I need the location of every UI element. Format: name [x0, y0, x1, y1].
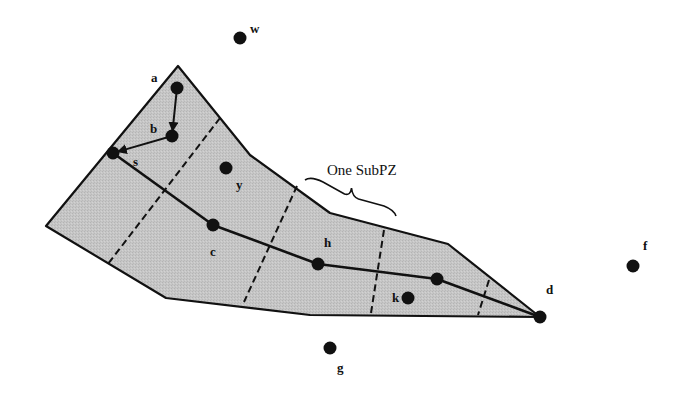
node-label-c: c — [210, 244, 216, 259]
node-label-d: d — [546, 282, 554, 297]
subpz-label: One SubPZ — [327, 162, 397, 178]
node-d — [534, 311, 547, 324]
node-y — [220, 162, 233, 175]
node-c — [207, 219, 220, 232]
node-label-a: a — [151, 70, 158, 85]
node-p — [431, 273, 444, 286]
node-b — [166, 130, 179, 143]
node-label-y: y — [236, 177, 243, 192]
planning-zone-region — [46, 66, 540, 317]
node-w — [234, 32, 247, 45]
node-label-g: g — [337, 360, 344, 375]
node-label-k: k — [392, 290, 400, 305]
node-g — [324, 342, 337, 355]
node-f — [627, 260, 640, 273]
subpz-diagram: One SubPZ absychkdwfg — [0, 0, 679, 397]
node-label-f: f — [643, 238, 648, 253]
node-k — [402, 292, 415, 305]
node-label-b: b — [150, 121, 157, 136]
node-s — [107, 147, 120, 160]
node-label-h: h — [324, 235, 332, 250]
node-label-s: s — [133, 154, 138, 169]
node-a — [171, 82, 184, 95]
node-label-w: w — [250, 21, 260, 36]
node-h — [312, 258, 325, 271]
